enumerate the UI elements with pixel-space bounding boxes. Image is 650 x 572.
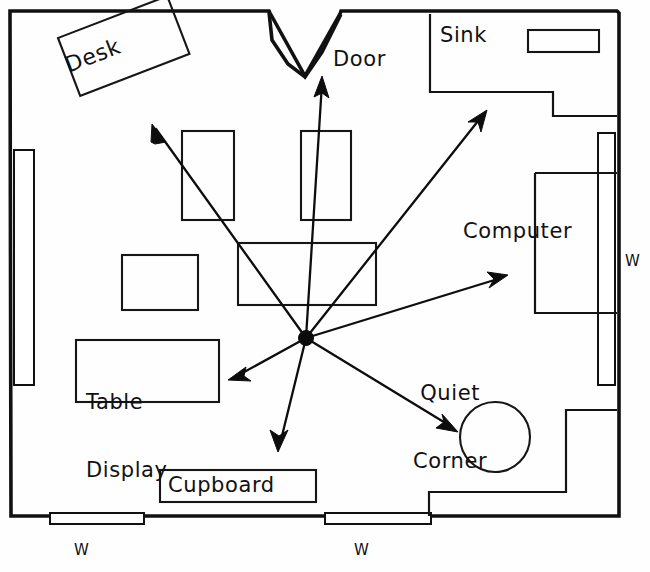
table-mid-left	[122, 255, 198, 310]
ray-to-table-display-line	[235, 338, 306, 377]
label-table-display-line1: Table	[86, 391, 168, 414]
label-quiet-corner: Quiet Corner	[413, 337, 487, 518]
ray-to-sink-line	[306, 116, 482, 338]
label-table-display: Table Display	[86, 346, 168, 527]
label-door: Door	[333, 48, 386, 71]
label-window-bottom-middle: W	[354, 542, 369, 558]
label-cupboard: Cupboard	[168, 474, 275, 497]
label-computer: Computer	[463, 220, 572, 243]
door-opening-notch	[269, 12, 340, 77]
ray-to-desk-line	[156, 129, 306, 338]
table-upper-right	[301, 131, 351, 220]
sink-basin	[528, 30, 599, 52]
ray-to-cupboard-arrowhead	[270, 430, 288, 452]
window-right-wall	[598, 133, 615, 385]
label-quiet-corner-line1: Quiet	[413, 382, 487, 405]
observation-point-dot[interactable]	[299, 331, 314, 346]
label-table-display-line2: Display	[86, 459, 168, 482]
label-window-right: W	[625, 253, 640, 269]
ray-to-computer-line	[306, 278, 501, 338]
label-quiet-corner-line2: Corner	[413, 450, 487, 473]
ray-to-desk-arrowhead	[151, 124, 166, 144]
label-sink: Sink	[440, 24, 487, 47]
floor-plan-canvas: Desk Door Sink Computer Quiet Corner Tab…	[0, 0, 650, 572]
ray-to-computer-arrowhead	[487, 272, 508, 288]
ray-to-door-line	[306, 83, 322, 338]
label-window-bottom-left: W	[74, 542, 89, 558]
ray-to-cupboard-line	[280, 338, 306, 444]
window-left-wall	[14, 150, 34, 385]
